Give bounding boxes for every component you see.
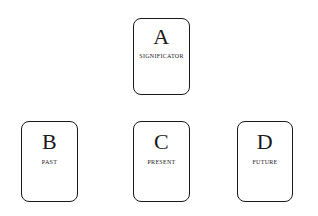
card-significator[interactable]: A Significator <box>133 18 190 95</box>
card-letter: A <box>153 26 169 48</box>
card-past[interactable]: B Past <box>21 121 78 202</box>
card-letter: D <box>257 131 273 153</box>
card-label: Significator <box>139 51 184 60</box>
card-letter: C <box>154 131 169 153</box>
card-label: Past <box>42 157 57 166</box>
card-label: Present <box>147 157 175 166</box>
card-spread-diagram: A Significator B Past C Present D Future <box>0 0 318 216</box>
card-future[interactable]: D Future <box>237 121 293 202</box>
card-letter: B <box>42 131 57 153</box>
card-label: Future <box>252 157 277 166</box>
card-present[interactable]: C Present <box>133 121 190 202</box>
